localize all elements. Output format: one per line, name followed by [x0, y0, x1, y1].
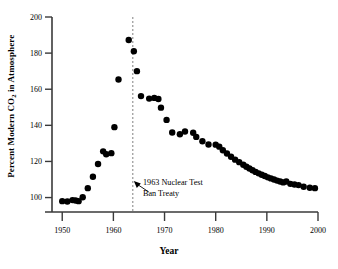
x-tick-label: 1950 [54, 226, 70, 235]
arrow-head [134, 181, 141, 188]
y-tick-label: 180 [30, 49, 42, 58]
data-point [131, 48, 137, 54]
data-point [126, 37, 132, 43]
data-point [193, 134, 199, 140]
x-tick-label: 1980 [208, 226, 224, 235]
data-point [79, 194, 85, 200]
data-point [312, 185, 318, 191]
chart-figure: Percent Modern CO2 in Atmosphere 1001201… [0, 0, 338, 269]
data-point [169, 129, 175, 135]
y-tick-marks [45, 17, 52, 198]
y-tick-label: 100 [30, 193, 42, 202]
x-tick-label: 1990 [259, 226, 275, 235]
data-point [111, 124, 117, 130]
data-point [138, 93, 144, 99]
plot-area: 100120140160180200 195019601970198019902… [0, 0, 338, 269]
data-point [108, 150, 114, 156]
y-tick-label: 140 [30, 121, 42, 130]
data-point [85, 185, 91, 191]
y-tick-labels: 100120140160180200 [30, 13, 42, 203]
data-point [205, 141, 211, 147]
data-point [155, 96, 161, 102]
data-point [90, 174, 96, 180]
annotation-line-1: 1963 Nuclear Test [143, 178, 203, 189]
x-tick-marks [62, 212, 318, 221]
data-point [182, 128, 188, 134]
x-tick-label: 1970 [157, 226, 173, 235]
annotation-label: 1963 Nuclear Test Ban Treaty [143, 178, 203, 199]
annotation-line-2: Ban Treaty [143, 189, 203, 200]
x-tick-label: 1960 [105, 226, 121, 235]
x-axis-title: Year [0, 246, 338, 256]
data-point [134, 68, 140, 74]
y-tick-label: 160 [30, 85, 42, 94]
data-point [95, 161, 101, 167]
data-point [300, 184, 306, 190]
data-point [115, 76, 121, 82]
data-point [163, 117, 169, 123]
y-tick-label: 200 [30, 13, 42, 22]
x-tick-label: 2000 [310, 226, 326, 235]
x-tick-labels: 195019601970198019902000 [54, 226, 326, 235]
y-tick-label: 120 [30, 157, 42, 166]
data-point [158, 104, 164, 110]
data-point [199, 138, 205, 144]
